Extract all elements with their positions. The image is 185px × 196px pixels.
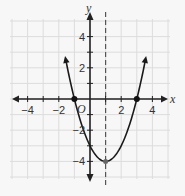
vertex-point	[103, 159, 108, 164]
x-intercept-point	[134, 96, 140, 102]
y-tick-label: 4	[79, 31, 85, 43]
axes	[12, 12, 168, 182]
origin-label: O	[77, 102, 86, 116]
y-axis-label: y	[85, 1, 92, 15]
y-tick-label: 2	[79, 62, 85, 74]
x-axis-label: x	[169, 92, 176, 106]
y-tick-label: −4	[72, 155, 85, 167]
x-tick-label: 2	[118, 104, 124, 116]
x-tick-label: 4	[149, 104, 155, 116]
y-tick-label: −2	[72, 124, 85, 136]
x-tick-label: −2	[53, 104, 66, 116]
x-tick-label: −4	[21, 104, 34, 116]
parabola-graph: −4−22442−2−4 x y O	[0, 0, 185, 196]
